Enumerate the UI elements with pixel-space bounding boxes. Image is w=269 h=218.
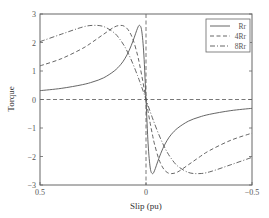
y-tick-label: 1 [32, 67, 36, 76]
x-axis-label: Slip (pu) [130, 201, 162, 211]
y-tick-label: 2 [32, 39, 36, 48]
legend-label-4rr: 4Rr [235, 32, 247, 41]
legend: Rr4Rr8Rr [206, 19, 250, 52]
legend-label-8rr: 8Rr [235, 42, 247, 51]
legend-label-rr: Rr [239, 22, 247, 31]
y-tick-label: 0 [32, 96, 36, 105]
x-tick-label: −0.5 [245, 188, 260, 197]
torque-slip-chart: 3210−1−2−30.50−0.5 Rr4Rr8Rr Slip (pu) To… [0, 0, 269, 218]
x-tick-label: 0.5 [35, 188, 45, 197]
y-tick-label: −2 [27, 153, 36, 162]
y-tick-label: 3 [32, 10, 36, 19]
x-tick-label: 0 [144, 188, 148, 197]
y-tick-label: −1 [27, 124, 36, 133]
y-axis-label: Torque [6, 86, 16, 111]
